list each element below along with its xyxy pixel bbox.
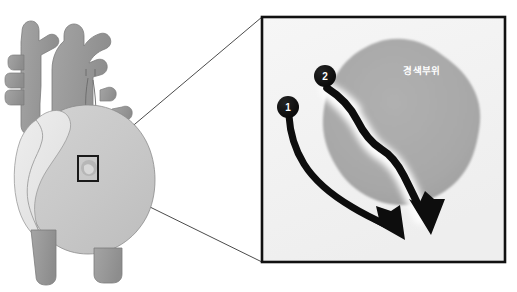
infarct-area-label: 경색부위 — [403, 65, 440, 76]
vena-cava-stub-mid — [5, 73, 24, 88]
diagram-canvas: 1 2 경색부위 — [0, 0, 517, 292]
callout-label-1: 1 — [285, 102, 291, 113]
callout-marker-2[interactable]: 2 — [314, 65, 336, 87]
figure-root: 1 2 경색부위 — [0, 0, 517, 292]
callout-label-2: 2 — [322, 71, 328, 82]
aorta-branch-right-upper — [100, 87, 116, 101]
heart-infarct-patch — [81, 160, 97, 176]
callout-marker-1[interactable]: 1 — [277, 96, 299, 118]
vena-cava-stub-upper — [8, 55, 24, 70]
inset-panel: 1 2 경색부위 — [262, 17, 505, 262]
descending-aorta — [94, 248, 122, 283]
vena-cava-stub-lower — [5, 90, 24, 105]
